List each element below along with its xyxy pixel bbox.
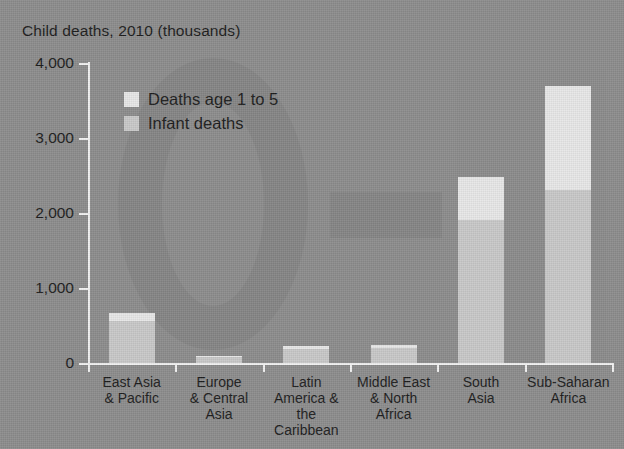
y-tick-label: 0 <box>65 354 74 372</box>
x-axis-label: LatinAmerica &the Caribbean <box>263 374 350 438</box>
x-axis-label: Europe& CentralAsia <box>175 374 262 422</box>
chart-axis-title: Child deaths, 2010 (thousands) <box>22 22 240 40</box>
x-tick-mark <box>263 363 265 372</box>
x-axis-label-line: East Asia <box>88 374 175 390</box>
x-axis-label-line: Asia <box>175 406 262 422</box>
x-axis-label-line: & Pacific <box>88 390 175 406</box>
legend-item-infant-deaths[interactable]: Infant deaths <box>124 114 278 133</box>
legend-label: Deaths age 1 to 5 <box>148 90 278 109</box>
y-tick-label: 2,000 <box>35 204 74 222</box>
x-axis-label: Sub-SaharanAfrica <box>525 374 612 406</box>
y-tick-mark <box>79 288 88 290</box>
x-axis-label-line: South <box>437 374 524 390</box>
x-axis-label-line: Middle East <box>350 374 437 390</box>
x-axis-label-line: & Central <box>175 390 262 406</box>
x-tick-mark <box>612 363 614 372</box>
clipped-headline <box>118 0 548 2</box>
y-tick-mark <box>79 63 88 65</box>
legend-swatch <box>124 116 139 131</box>
bar-segment-infant-deaths <box>458 220 504 363</box>
x-axis-label-line: Sub-Saharan <box>525 374 612 390</box>
bar-segment-infant-deaths <box>371 348 417 363</box>
bar-sub-saharan-africa[interactable] <box>545 86 591 364</box>
bar-east-asia-pacific[interactable] <box>109 313 155 363</box>
x-axis-label-line: the Caribbean <box>263 406 350 438</box>
bar-segment-infant-deaths <box>545 190 591 363</box>
legend-label: Infant deaths <box>148 114 243 133</box>
bar-south-asia[interactable] <box>458 177 504 363</box>
x-tick-mark <box>88 363 90 372</box>
y-tick-mark <box>79 138 88 140</box>
y-axis-line <box>88 62 90 364</box>
legend-item-deaths-age-1-to-5[interactable]: Deaths age 1 to 5 <box>124 90 278 109</box>
x-axis-label-line: America & <box>263 390 350 406</box>
legend-swatch <box>124 92 139 107</box>
chart-figure: Child deaths, 2010 (thousands) 01,0002,0… <box>0 0 624 449</box>
x-tick-mark <box>175 363 177 372</box>
x-axis-label: East Asia& Pacific <box>88 374 175 406</box>
y-tick-mark <box>79 213 88 215</box>
y-tick-mark <box>79 363 88 365</box>
x-axis-label: SouthAsia <box>437 374 524 406</box>
x-axis-label-line: Africa <box>350 406 437 422</box>
bar-segment-deaths-age-1-to-5 <box>458 177 504 220</box>
y-tick-label: 1,000 <box>35 279 74 297</box>
bar-middle-east-north-africa[interactable] <box>371 345 417 363</box>
y-tick-label: 3,000 <box>35 129 74 147</box>
y-tick-label: 4,000 <box>35 54 74 72</box>
bar-latin-america-the-caribbean[interactable] <box>283 346 329 363</box>
x-tick-mark <box>525 363 527 372</box>
x-axis-label-line: Asia <box>437 390 524 406</box>
bar-europe-central-asia[interactable] <box>196 356 242 363</box>
bar-segment-deaths-age-1-to-5 <box>545 86 591 190</box>
bar-segment-infant-deaths <box>283 349 329 363</box>
x-axis-label-line: & North <box>350 390 437 406</box>
x-axis-label: Middle East& NorthAfrica <box>350 374 437 422</box>
x-axis-label-line: Africa <box>525 390 612 406</box>
x-tick-mark <box>350 363 352 372</box>
x-axis-label-line: Latin <box>263 374 350 390</box>
x-tick-mark <box>437 363 439 372</box>
bar-segment-infant-deaths <box>109 321 155 363</box>
chart-legend: Deaths age 1 to 5Infant deaths <box>124 90 278 138</box>
bar-segment-deaths-age-1-to-5 <box>109 313 155 321</box>
x-axis-label-line: Europe <box>175 374 262 390</box>
